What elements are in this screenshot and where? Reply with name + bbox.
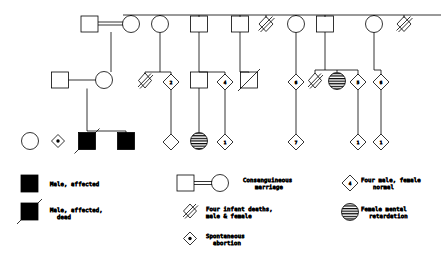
legend-item-spontaneous-abortion: Spontaneous abortion	[184, 232, 245, 246]
g3-female-mental-retardation-2	[191, 133, 208, 150]
legend-female-mr-label-1: Female mental	[361, 206, 407, 212]
legend-diamond-number: 4	[349, 181, 352, 186]
g1-sib-female-2	[288, 16, 305, 33]
g2-male-spouse	[52, 72, 69, 88]
g2-diamond-2: 2	[163, 74, 179, 90]
legend-male-affected-label: Male, affected	[50, 181, 99, 187]
legend-consanguineous-label-1: Consanguineous	[243, 177, 292, 184]
legend-consanguineous-label-2: marriage	[255, 184, 284, 191]
g2-infant-deaths-diamond-icon-a	[138, 73, 153, 89]
g3-diamond-c-number: 7	[295, 140, 298, 145]
legend-four-male-female-normal-label-2: normal	[373, 184, 394, 190]
g1-sib-male-3	[317, 16, 334, 32]
legend-item-consanguineous-marriage: Consanguineous marriage	[177, 175, 292, 192]
g2-diamond-5-number: 5	[357, 80, 360, 85]
g2-diamond-2-number: 2	[170, 80, 173, 85]
g3-diamond-b: 1	[217, 134, 233, 150]
g2-diamond-6b: 6	[373, 74, 389, 90]
g3-diamond-e-number: 1	[380, 140, 383, 145]
g2-diamond-4: 4	[217, 74, 233, 90]
g2-female-mental-retardation	[329, 73, 346, 90]
legend-spontaneous-abortion-label-2: abortion	[213, 240, 241, 246]
pedigree-figure: 2 4 6 5 6	[0, 0, 448, 265]
legend-item-male-affected: Male, affected	[21, 175, 99, 192]
g3-male-affected-dead	[75, 129, 100, 154]
g3-diamond-c: 7	[288, 134, 304, 150]
legend-infant-deaths-label-1: Four infant deaths,	[206, 206, 273, 212]
g2-infant-deaths-diamond-icon-b	[308, 73, 323, 89]
g3-diamond-d: 1	[350, 134, 366, 150]
legend-item-four-infant-deaths: Four infant deaths, male & female	[183, 204, 273, 219]
g1-sib-infant-deaths-diamond-icon-2	[397, 17, 413, 33]
g2-male-a	[191, 72, 208, 88]
legend-item-four-male-female-normal: 4 Four male, female normal	[342, 175, 421, 191]
g2-diamond-6-number: 6	[295, 80, 298, 85]
consanguineous-union-line	[98, 22, 123, 25]
legend-male-affected-dead-label-2: dead	[57, 214, 71, 220]
g3-diamond-b-number: 1	[224, 140, 227, 145]
g1-sib-infant-deaths-diamond-icon	[259, 17, 275, 33]
g2-diamond-5: 5	[350, 74, 366, 90]
g3-diamond-d-number: 1	[357, 140, 360, 145]
g1-male-founder	[81, 16, 98, 32]
legend-item-male-affected-dead: Male, affected, dead	[17, 199, 103, 224]
legend-spontaneous-abortion-label-1: Spontaneous	[206, 233, 245, 240]
g3-spontaneous-abortion-icon	[52, 135, 65, 148]
g2-diamond-6: 6	[288, 74, 304, 90]
descent-lines-g1-g2	[111, 32, 381, 75]
legend-infant-deaths-label-2: male & female	[206, 213, 252, 219]
g3-diamond-e: 1	[373, 134, 389, 150]
g1-sib-female-1	[152, 16, 169, 33]
g1-sib-male-1	[191, 16, 208, 32]
legend-item-female-mental-retardation: Female mental retardation	[342, 204, 408, 221]
g3-male-affected	[118, 133, 135, 150]
legend-male-affected-dead-label-1: Male, affected,	[50, 207, 103, 213]
g2-diamond-4-number: 4	[224, 80, 227, 85]
g1-sib-female-3	[366, 16, 383, 33]
g3-female-spouse	[22, 133, 39, 150]
generation-1-sibship-line	[123, 15, 441, 18]
g2-female-proband	[96, 72, 113, 89]
g1-female-founder	[123, 16, 140, 33]
g1-sib-male-2	[232, 16, 249, 32]
g2-male-deceased	[238, 69, 260, 91]
descent-lines-g2-g3	[87, 88, 381, 134]
g3-diamond-a	[163, 134, 179, 150]
legend-female-mr-label-2: retardation	[369, 213, 408, 219]
legend-four-male-female-normal-label-1: Four male, female	[361, 177, 421, 183]
g2-diamond-6b-number: 6	[380, 80, 383, 85]
